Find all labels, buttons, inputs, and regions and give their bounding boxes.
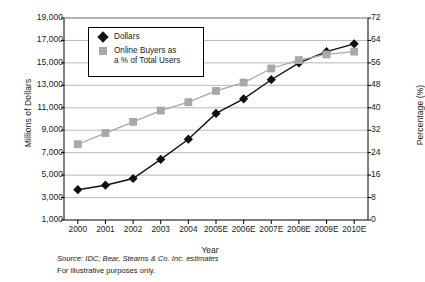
legend-item-online-buyers: Online Buyers as a % of Total Users	[95, 46, 198, 67]
data-point-marker	[156, 155, 165, 164]
legend-item-dollars: Dollars	[95, 32, 198, 43]
data-point-marker	[73, 185, 82, 194]
y-axis-right-tick-label: 32	[371, 125, 395, 134]
legend-label-dollars: Dollars	[111, 32, 139, 43]
data-point-marker	[101, 181, 110, 190]
y-axis-left-tick-label: 19,000	[19, 13, 63, 22]
y-axis-right-tick-label: 64	[371, 35, 395, 44]
data-point-marker	[129, 118, 137, 126]
y-axis-right-title: Percentage (%)	[415, 40, 425, 190]
y-axis-left-title: Millions of Dollars	[23, 38, 33, 188]
data-point-marker	[184, 98, 192, 106]
data-point-marker	[74, 140, 82, 148]
y-axis-left-tick-label: 1,000	[19, 215, 63, 224]
data-point-marker	[295, 56, 303, 64]
y-axis-right-tick-label: 8	[371, 193, 395, 202]
source-note: Source: IDC; Bear, Stearns & Co. Inc. es…	[57, 254, 219, 263]
data-point-marker	[239, 94, 248, 103]
y-axis-right-tick-label: 24	[371, 148, 395, 157]
data-point-marker	[267, 65, 275, 73]
y-axis-right-ticks: 081624324048566472	[371, 0, 411, 282]
diamond-marker-icon	[95, 32, 111, 41]
data-point-marker	[212, 87, 220, 95]
data-point-marker	[323, 51, 331, 59]
y-axis-right-tick-label: 0	[371, 215, 395, 224]
data-point-marker	[240, 79, 248, 87]
x-axis-tick-label: 2010E	[334, 224, 374, 234]
y-axis-right-tick-label: 56	[371, 58, 395, 67]
data-point-marker	[157, 107, 165, 115]
y-axis-right-tick-label: 48	[371, 80, 395, 89]
legend-label-line1: Online Buyers as	[114, 46, 176, 55]
y-axis-left-tick-label: 3,000	[19, 193, 63, 202]
y-axis-right-tick-label: 16	[371, 170, 395, 179]
y-axis-right-tick-label: 72	[371, 13, 395, 22]
square-marker-icon	[95, 46, 111, 55]
chart-legend: Dollars Online Buyers as a % of Total Us…	[88, 27, 204, 77]
legend-label-online-buyers: Online Buyers as a % of Total Users	[111, 46, 180, 67]
legend-label-line2: a % of Total Users	[114, 56, 180, 65]
disclaimer-note: For illustrative purposes only.	[57, 266, 155, 275]
data-point-marker	[102, 129, 110, 137]
data-point-marker	[350, 48, 358, 56]
data-point-marker	[267, 75, 276, 84]
y-axis-right-tick-label: 40	[371, 103, 395, 112]
